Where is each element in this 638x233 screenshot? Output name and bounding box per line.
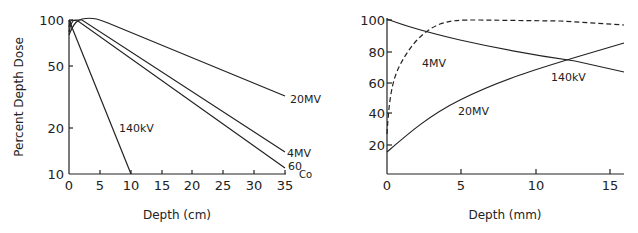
curve-60co: [69, 20, 285, 168]
xtick: 5: [96, 178, 104, 193]
xtick: 15: [602, 178, 619, 193]
label-140kv: 140kV: [119, 122, 154, 135]
figure: 100 50 20 10 0 5 10 15 20 25 30 35 Depth…: [0, 0, 638, 233]
left-labels: 100 50 20 10 0 5 10 15 20 25 30 35 Depth…: [12, 13, 321, 222]
right-labels: 100 80 60 40 20 0 5 10 15 Depth (mm) 4MV…: [360, 13, 618, 222]
ytick: 50: [47, 59, 64, 74]
label-4mv: 4MV: [422, 57, 446, 70]
xtick: 0: [65, 178, 73, 193]
left-chart: [69, 18, 286, 174]
xtick: 25: [215, 178, 232, 193]
ytick: 20: [368, 138, 385, 153]
y-axis-label: Percent Depth Dose: [12, 37, 26, 157]
ytick: 40: [368, 106, 385, 121]
curve-140kv: [69, 20, 131, 174]
xtick: 5: [457, 178, 465, 193]
curve-4mv: [69, 20, 285, 152]
xtick: 0: [383, 178, 391, 193]
curve-20mv: [69, 18, 285, 96]
xtick: 35: [277, 178, 294, 193]
label-4mv: 4MV: [287, 147, 311, 160]
xtick: 15: [154, 178, 171, 193]
ytick: 100: [360, 13, 385, 28]
xtick: 10: [528, 178, 545, 193]
label-20mv: 20MV: [290, 93, 321, 106]
ytick: 10: [47, 167, 64, 182]
ytick: 60: [368, 76, 385, 91]
ytick: 20: [47, 121, 64, 136]
xtick: 20: [184, 178, 201, 193]
xtick: 10: [123, 178, 140, 193]
label-20mv: 20MV: [458, 105, 489, 118]
label-60co-sub: Co: [299, 169, 312, 180]
ytick: 80: [368, 45, 385, 60]
curve-4mv-dashed: [387, 20, 624, 134]
xtick: 30: [246, 178, 263, 193]
x-axis-label: Depth (mm): [468, 208, 541, 222]
right-chart: [387, 18, 624, 174]
label-140kv: 140kV: [551, 71, 586, 84]
ytick: 100: [39, 13, 64, 28]
x-axis-label: Depth (cm): [143, 208, 211, 222]
